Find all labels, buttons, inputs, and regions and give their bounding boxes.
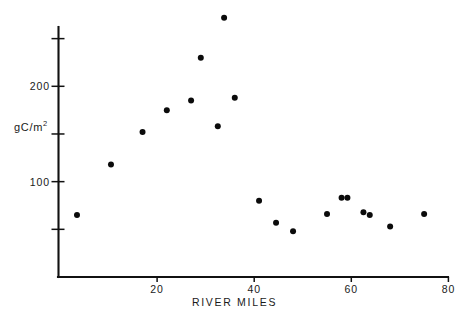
data-point — [256, 198, 262, 204]
data-point-markers — [74, 15, 427, 235]
data-point — [74, 212, 80, 218]
y-axis-title: gC/m2 — [14, 119, 47, 133]
y-axis-tick-label: 100 — [22, 176, 50, 188]
plot-canvas — [0, 0, 469, 320]
data-point — [215, 123, 221, 129]
data-point — [421, 211, 427, 217]
data-point — [164, 107, 170, 113]
x-axis-tick-label: 40 — [247, 283, 260, 295]
axes — [58, 27, 448, 277]
x-axis-tick-label: 80 — [442, 283, 455, 295]
data-point — [387, 223, 393, 229]
data-point — [273, 220, 279, 226]
data-point — [324, 211, 330, 217]
data-point — [188, 98, 194, 104]
x-axis-tick-label: 20 — [150, 283, 163, 295]
data-point — [140, 129, 146, 135]
x-axis-tick-label: 60 — [345, 283, 358, 295]
data-point — [221, 15, 227, 21]
data-point — [290, 228, 296, 234]
data-point — [339, 195, 345, 201]
y-axis-tick-label: 200 — [22, 80, 50, 92]
data-point — [108, 161, 114, 167]
data-point — [360, 209, 366, 215]
x-axis-title: RIVER MILES — [0, 296, 469, 308]
scatter-plot-figure: 200100 20406080 gC/m2 RIVER MILES — [0, 0, 469, 320]
data-point — [367, 212, 373, 218]
data-point — [344, 195, 350, 201]
data-point — [198, 55, 204, 61]
data-point — [232, 95, 238, 101]
